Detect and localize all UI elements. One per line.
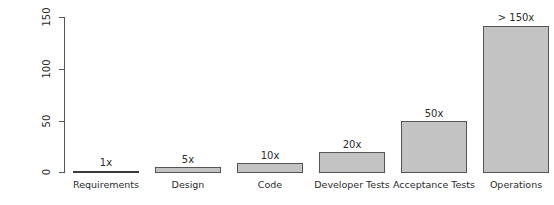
category-label-operations: Operations [478, 179, 554, 191]
bar-requirements [73, 171, 139, 173]
bar-value-requirements: 1x [73, 157, 139, 168]
bar-value-code: 10x [237, 150, 303, 161]
category-label-acceptance-tests: Acceptance Tests [392, 179, 476, 191]
bar-value-operations: > 150x [483, 12, 549, 23]
bar-code [237, 163, 303, 173]
bar-value-acceptance-tests: 50x [401, 108, 467, 119]
category-label-design: Design [150, 179, 226, 191]
bar-acceptance-tests [401, 121, 467, 173]
bar-developer-tests [319, 152, 385, 173]
bar-chart: Relative cost of a bugfix 0 50 100 150 1… [0, 0, 554, 205]
bar-design [155, 167, 221, 173]
category-label-code: Code [232, 179, 308, 191]
bar-operations [483, 26, 549, 173]
plot-area: 1x Requirements 5x Design 10x Code 20x D… [0, 0, 554, 205]
bar-value-design: 5x [155, 154, 221, 165]
category-label-developer-tests: Developer Tests [310, 179, 394, 191]
bar-value-developer-tests: 20x [319, 139, 385, 150]
category-label-requirements: Requirements [68, 179, 144, 191]
